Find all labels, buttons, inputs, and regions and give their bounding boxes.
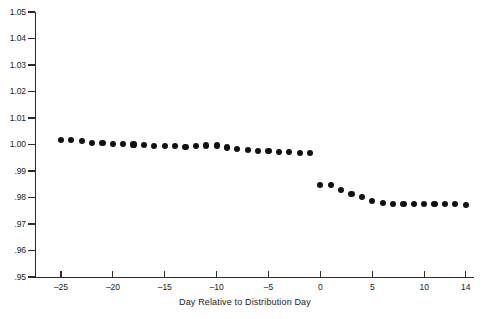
data-point [380,200,386,206]
data-point [172,143,178,149]
data-point [141,142,147,148]
data-point [265,148,271,154]
data-point [151,143,157,149]
data-point [390,201,396,207]
data-point [328,182,334,188]
data-point [286,149,292,155]
data-point [245,147,251,153]
data-point [68,137,74,143]
data-point [130,141,136,147]
data-point [182,144,188,150]
data-point [203,142,209,148]
data-point [99,140,105,146]
data-point [442,201,448,207]
data-point [411,201,417,207]
data-point [58,137,64,143]
data-point [338,187,344,193]
data-point [79,138,85,144]
data-point [214,142,220,148]
data-point [276,149,282,155]
data-point [369,198,375,204]
data-point [400,201,406,207]
data-point [234,146,240,152]
data-point [421,201,427,207]
data-point [110,141,116,147]
data-point [224,144,230,150]
scatter-plot-area [0,0,490,319]
data-point [359,194,365,200]
data-point [348,191,354,197]
data-point [431,201,437,207]
data-point [452,201,458,207]
data-point [193,143,199,149]
data-point [255,148,261,154]
data-point [463,202,469,208]
data-point [162,143,168,149]
data-point [307,150,313,156]
data-point [297,150,303,156]
x-axis-label: Day Relative to Distribution Day [0,297,490,307]
data-point [89,140,95,146]
data-point [120,141,126,147]
data-point [317,182,323,188]
chart-figure: .95.96.97.98.991.001.011.021.031.041.05 … [0,0,490,319]
